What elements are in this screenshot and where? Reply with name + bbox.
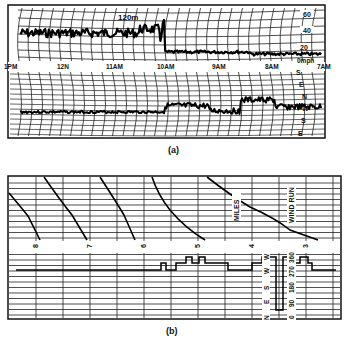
- speed-tick-40: 40: [303, 27, 311, 34]
- wind-run-label: WIND RUN: [288, 187, 295, 223]
- time-label-12n: 12N: [57, 63, 69, 70]
- dir-letter-s: S: [263, 285, 270, 290]
- hour-label-6: 6: [140, 244, 147, 248]
- speed-tick-20: 20: [300, 44, 308, 51]
- deg-label-270: 270: [288, 266, 295, 277]
- panel-a: 120m 1PM 12N 11AM 10AM 9AM 8AM 7AM 60 40…: [4, 5, 331, 155]
- deg-label-0: 0: [288, 315, 295, 319]
- dir-letter-w-top: W: [263, 253, 270, 260]
- speed-tick-60: 60: [303, 11, 311, 18]
- hour-label-8: 8: [32, 244, 39, 248]
- hour-label-5: 5: [194, 244, 201, 248]
- time-label-9am: 9AM: [212, 63, 226, 70]
- time-label-1pm: 1PM: [4, 63, 17, 70]
- direction-letter-scale: W W S E N: [262, 252, 270, 322]
- figure: 120m 1PM 12N 11AM 10AM 9AM 8AM 7AM 60 40…: [0, 0, 353, 341]
- dir-tick-n: N: [302, 93, 307, 100]
- time-label-8am: 8AM: [265, 63, 279, 70]
- dir-tick-e: E: [299, 81, 304, 88]
- deg-label-90: 90: [288, 299, 295, 307]
- deg-label-180: 180: [288, 282, 295, 293]
- height-label: 120m: [118, 13, 138, 22]
- deg-label-360: 360: [288, 252, 295, 263]
- dir-tick-s: S: [296, 69, 301, 76]
- caption-b: (b): [166, 326, 178, 336]
- degree-scale: 360 270 180 90 0: [287, 250, 296, 322]
- hour-label-7: 7: [86, 244, 93, 248]
- dir-tick-e2: E: [298, 130, 303, 137]
- dir-letter-n: N: [263, 315, 270, 320]
- time-label-11am: 11AM: [106, 63, 123, 70]
- speed-tick-0mph: 0mph: [297, 57, 314, 65]
- dir-tick-s2: S: [301, 117, 306, 124]
- panel-b: 8 7 6 5 4 3 MILES WIND RUN W W S E N 360…: [8, 176, 341, 336]
- hour-label-4: 4: [248, 244, 255, 248]
- time-label-7am: 7AM: [317, 63, 331, 70]
- dir-tick-w: W: [302, 105, 309, 112]
- dir-letter-w: W: [263, 267, 270, 274]
- time-label-10am: 10AM: [157, 63, 174, 70]
- dir-letter-e: E: [263, 299, 270, 304]
- hour-label-3: 3: [302, 244, 309, 248]
- miles-label: MILES: [233, 199, 240, 221]
- caption-a: (a): [168, 145, 179, 155]
- panel-a-frame: [8, 5, 325, 138]
